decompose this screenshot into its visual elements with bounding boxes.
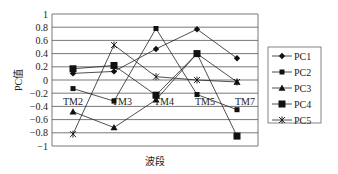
legend-label: PC4 <box>294 99 311 110</box>
y-tick-label: 0 <box>43 75 48 86</box>
diamond-marker-icon <box>111 68 117 74</box>
large-square-marker-icon <box>279 101 286 108</box>
large-square-marker-icon <box>70 65 77 72</box>
gridlines <box>52 14 258 146</box>
large-square-marker-icon <box>194 50 201 57</box>
legend-label: PC1 <box>294 51 311 62</box>
large-square-marker-icon <box>234 133 241 140</box>
category-label: TM7 <box>235 96 255 107</box>
y-tick-label: −0.2 <box>30 88 48 99</box>
asterisk-marker-icon <box>111 42 117 49</box>
y-tick-label: 0.8 <box>36 22 49 33</box>
square-marker-icon <box>112 99 117 104</box>
x-axis-label: 波段 <box>145 155 165 167</box>
legend: PC1PC2PC3PC4PC5 <box>268 47 321 126</box>
triangle-marker-icon <box>111 124 118 130</box>
diamond-marker-icon <box>153 46 159 52</box>
legend-label: PC3 <box>294 83 311 94</box>
y-axis-ticks: 10.80.60.40.20−0.2−0.4−0.6−0.8−1 <box>30 9 48 152</box>
square-marker-icon <box>280 70 285 75</box>
legend-label: PC2 <box>294 67 311 78</box>
y-tick-label: −0.8 <box>30 127 48 138</box>
category-label: TM2 <box>63 96 83 107</box>
triangle-marker-icon <box>70 108 77 114</box>
y-tick-label: −1 <box>37 141 48 152</box>
square-marker-icon <box>195 92 200 97</box>
large-square-marker-icon <box>153 92 160 99</box>
y-tick-label: 1 <box>43 9 48 20</box>
square-marker-icon <box>235 107 240 112</box>
y-tick-label: −0.4 <box>30 101 48 112</box>
y-tick-label: 0.6 <box>36 35 49 46</box>
series-pc1 <box>70 26 240 77</box>
legend-label: PC5 <box>294 115 311 126</box>
line-chart: 10.80.60.40.20−0.2−0.4−0.6−0.8−1 TM2TM3T… <box>0 0 338 174</box>
diamond-marker-icon <box>234 55 240 61</box>
y-tick-label: −0.6 <box>30 114 48 125</box>
asterisk-marker-icon <box>70 131 76 138</box>
y-tick-label: 0.2 <box>36 61 49 72</box>
data-series <box>70 26 241 140</box>
y-axis-label: PC值 <box>12 69 24 91</box>
square-marker-icon <box>154 26 159 31</box>
large-square-marker-icon <box>111 62 118 69</box>
y-tick-label: 0.4 <box>36 48 49 59</box>
square-marker-icon <box>71 86 76 91</box>
